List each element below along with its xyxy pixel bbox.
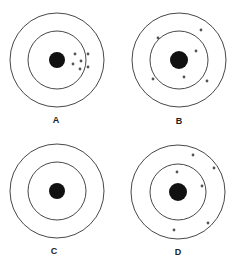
shot-dot: [201, 185, 204, 188]
target-c: C: [10, 144, 104, 256]
bullseye: [169, 183, 187, 201]
shot-dot: [87, 66, 90, 69]
bullseye: [170, 51, 188, 69]
target-label: B: [176, 116, 183, 126]
shot-dot: [80, 60, 83, 63]
shot-dot: [72, 63, 75, 66]
shot-dot: [173, 229, 176, 232]
shot-dot: [157, 37, 160, 40]
shot-dot: [200, 29, 203, 32]
shot-dot: [79, 68, 82, 71]
targets-diagram: ABCD: [0, 0, 235, 261]
target-label: D: [175, 247, 182, 257]
shot-dot: [183, 76, 186, 79]
target-d: D: [131, 145, 225, 257]
shot-dot: [207, 222, 210, 225]
target-b: B: [132, 13, 226, 126]
shot-dot: [195, 50, 198, 53]
target-label: C: [51, 246, 58, 256]
bullseye: [49, 52, 65, 68]
target-a: A: [10, 13, 104, 125]
shot-dot: [206, 80, 209, 83]
shot-dot: [176, 171, 179, 174]
shot-dot: [74, 53, 77, 56]
shot-dot: [87, 53, 90, 56]
shot-dot: [213, 167, 216, 170]
bullseye: [49, 183, 65, 199]
target-label: A: [53, 115, 60, 125]
shot-dot: [152, 78, 155, 81]
shot-dot: [192, 154, 195, 157]
